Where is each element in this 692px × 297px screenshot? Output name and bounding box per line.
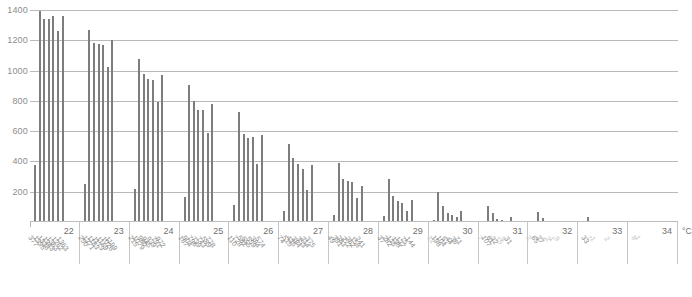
y-axis-tick-label: 400 xyxy=(12,156,28,166)
y-axis-labels: 200400600800100012001400 xyxy=(0,10,28,222)
bar xyxy=(197,110,199,222)
bar xyxy=(188,85,190,222)
bar xyxy=(342,179,344,222)
bar xyxy=(152,80,154,222)
bar xyxy=(487,206,489,222)
bar-groups xyxy=(30,10,678,222)
bar xyxy=(161,75,163,222)
bar xyxy=(243,134,245,222)
bar xyxy=(411,200,413,222)
bar xyxy=(143,74,145,222)
bar xyxy=(43,19,45,222)
bar xyxy=(111,40,113,222)
bar xyxy=(288,144,290,222)
y-axis-tick-label: 1400 xyxy=(7,5,28,15)
bar xyxy=(134,189,136,222)
bar xyxy=(292,158,294,222)
bar-value-label: 2 xyxy=(603,235,611,242)
bar-value-label: 31 xyxy=(503,235,513,246)
y-axis-tick-label: 800 xyxy=(12,96,28,106)
bar xyxy=(211,104,213,222)
bar xyxy=(261,135,263,222)
bar xyxy=(351,182,353,222)
bar xyxy=(102,45,104,222)
bar xyxy=(138,59,140,222)
bar xyxy=(306,190,308,222)
bar xyxy=(88,30,90,222)
bar xyxy=(338,163,340,222)
bar xyxy=(184,197,186,222)
bar-group xyxy=(329,10,379,222)
bar xyxy=(193,101,195,222)
bar-group xyxy=(80,10,130,222)
bar xyxy=(202,110,204,223)
y-axis-tick-label: 1000 xyxy=(7,66,28,76)
bar xyxy=(62,16,64,222)
bar-group xyxy=(628,10,678,222)
y-axis-tick-label: 1200 xyxy=(7,35,28,45)
bar xyxy=(48,19,50,222)
bar xyxy=(401,203,403,222)
bar xyxy=(52,16,54,222)
bar xyxy=(207,133,209,222)
bar xyxy=(57,31,59,222)
x-axis-unit-label: °C xyxy=(682,226,692,236)
bar xyxy=(84,184,86,222)
bar xyxy=(107,67,109,222)
bar-group xyxy=(379,10,429,222)
bar-group xyxy=(528,10,578,222)
bar-group xyxy=(429,10,479,222)
bar xyxy=(238,112,240,222)
plot-area xyxy=(30,10,678,222)
y-axis-tick-label: 600 xyxy=(12,126,28,136)
x-axis: 2237713951338134313631262136323250127111… xyxy=(30,222,678,297)
y-axis-tick-label: 200 xyxy=(12,187,28,197)
bar-value-label: 144 xyxy=(404,235,417,249)
bar xyxy=(147,79,149,222)
bar-group xyxy=(279,10,329,222)
bar xyxy=(297,164,299,222)
bar xyxy=(311,165,313,222)
bar xyxy=(392,196,394,223)
bar-group xyxy=(30,10,80,222)
bar xyxy=(256,164,258,222)
bar xyxy=(98,44,100,222)
bar xyxy=(388,179,390,222)
bar xyxy=(39,11,41,222)
bar-value-label: 1 xyxy=(635,234,643,241)
bar xyxy=(233,205,235,222)
bar xyxy=(442,206,444,222)
bar xyxy=(397,201,399,222)
bar xyxy=(302,169,304,222)
bar-group xyxy=(130,10,180,222)
bar xyxy=(356,198,358,222)
bar xyxy=(247,138,249,222)
bar-group xyxy=(180,10,230,222)
bar xyxy=(34,165,36,222)
bar-group xyxy=(479,10,529,222)
bar xyxy=(437,192,439,222)
bar-group xyxy=(578,10,628,222)
bar xyxy=(252,137,254,222)
bar-group xyxy=(229,10,279,222)
bar xyxy=(93,43,95,222)
bar xyxy=(361,186,363,222)
bar xyxy=(157,102,159,222)
x-axis-group-separator xyxy=(677,222,678,264)
bar xyxy=(347,181,349,222)
